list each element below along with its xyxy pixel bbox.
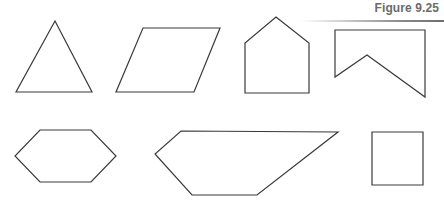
parallelogram-shape <box>116 28 220 92</box>
triangle-shape <box>16 21 92 92</box>
shapes-canvas <box>0 0 444 202</box>
concave-pentagon-shape <box>335 30 425 97</box>
pentagon-house-shape <box>245 17 309 93</box>
irregular-pentagon-shape <box>155 131 338 195</box>
square-shape <box>372 132 423 185</box>
hexagon-shape <box>15 130 116 182</box>
